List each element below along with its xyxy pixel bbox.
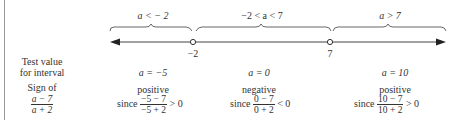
- relation: < 0: [277, 98, 290, 109]
- test-value-line2: for interval: [16, 67, 68, 78]
- denominator: 10 + 2: [377, 105, 403, 115]
- numerator: −5 − 7: [140, 94, 167, 105]
- since-text: since: [354, 98, 375, 109]
- test-value-col3: a = 10: [362, 67, 428, 78]
- fraction-col2: 0 − 7 0 + 2: [253, 94, 275, 115]
- interval-braces: [110, 24, 446, 31]
- right-arrow-icon: [436, 39, 446, 46]
- since-expr-col1: since −5 − 7 −5 + 2 > 0: [117, 94, 183, 115]
- denominator: 0 + 2: [253, 105, 275, 115]
- interval-label-2: −2 < a < 7: [222, 10, 302, 21]
- interval-label-1: a < − 2: [120, 10, 186, 21]
- open-point-minus2: [190, 39, 195, 44]
- expr-numerator: a − 7: [31, 94, 54, 105]
- numerator: 0 − 7: [253, 94, 275, 105]
- fraction-col1: −5 − 7 −5 + 2: [140, 94, 167, 115]
- since-expr-col3: since 10 − 7 10 + 2 > 0: [354, 94, 419, 115]
- relation: > 0: [406, 98, 419, 109]
- open-point-7: [327, 39, 332, 44]
- left-arrow-icon: [110, 39, 120, 46]
- point-label-7: 7: [318, 48, 342, 59]
- relation: > 0: [170, 98, 183, 109]
- number-line-graphic: [0, 0, 464, 60]
- since-text: since: [230, 98, 251, 109]
- test-value-col1: a = −5: [120, 67, 186, 78]
- test-value-line1: Test value: [16, 56, 68, 67]
- test-value-col2: a = 0: [226, 67, 292, 78]
- expr-denominator: a + 2: [31, 105, 54, 115]
- sign-of-text: Sign of: [16, 82, 68, 93]
- since-expr-col2: since 0 − 7 0 + 2 < 0: [230, 94, 290, 115]
- since-text: since: [117, 98, 138, 109]
- fraction-col3: 10 − 7 10 + 2: [377, 94, 403, 115]
- expression-fraction: a − 7 a + 2: [31, 94, 54, 115]
- interval-label-3: a > 7: [365, 10, 415, 21]
- row-label-test-value: Test value for interval: [16, 56, 68, 78]
- denominator: −5 + 2: [140, 105, 167, 115]
- point-label-minus2: −2: [181, 48, 205, 59]
- row-label-sign-of: Sign of a − 7 a + 2: [16, 82, 68, 115]
- numerator: 10 − 7: [377, 94, 403, 105]
- interval-label-2-text: −2 < a < 7: [241, 10, 282, 21]
